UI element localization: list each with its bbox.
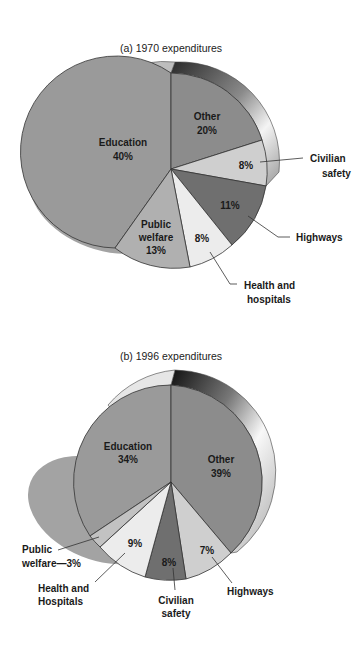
chart-title-1996: (b) 1996 expenditures [120, 350, 222, 362]
label-health-name2: hospitals [247, 294, 291, 305]
label-highways-value: 7% [200, 545, 215, 556]
label-welfare-name2: welfare [138, 232, 174, 243]
label-welfare-name1: Public [141, 219, 171, 230]
label-highways-name: Highways [227, 586, 274, 597]
label-civilian-name1: Civilian [310, 153, 346, 164]
label-education-name: Education [99, 137, 147, 148]
label-civilian-name1: Civilian [158, 595, 194, 606]
label-welfare-name1: Public [22, 544, 52, 555]
label-health-value: 9% [128, 538, 143, 549]
label-highways-name: Highways [296, 232, 343, 243]
chart-1996: (b) 1996 expenditures Education 34% Othe… [12, 350, 276, 619]
label-civilian-name2: safety [162, 608, 191, 619]
label-civilian-value: 8% [162, 557, 177, 568]
label-health-name1: Health and [244, 280, 295, 291]
label-health-name1: Health and [38, 583, 89, 594]
label-civilian-value: 8% [239, 160, 254, 171]
label-welfare-name2: welfare—3% [21, 558, 81, 569]
label-health-value: 8% [195, 233, 210, 244]
label-education-value: 40% [113, 151, 133, 162]
chart-title-1970: (a) 1970 expenditures [120, 42, 222, 54]
label-welfare-value: 13% [146, 245, 166, 256]
chart-1970: (a) 1970 expenditures Education 40% Othe… [15, 42, 352, 305]
label-highways-value: 11% [220, 200, 240, 211]
figure: (a) 1970 expenditures Education 40% Othe… [0, 0, 354, 657]
label-other-value: 20% [197, 125, 217, 136]
label-health-name2: Hospitals [38, 596, 83, 607]
label-other-name: Other [194, 111, 221, 122]
label-education-name: Education [104, 441, 152, 452]
label-other-value: 39% [211, 468, 231, 479]
label-other-name: Other [208, 454, 235, 465]
label-education-value: 34% [118, 454, 138, 465]
label-civilian-name2: safety [322, 168, 351, 179]
